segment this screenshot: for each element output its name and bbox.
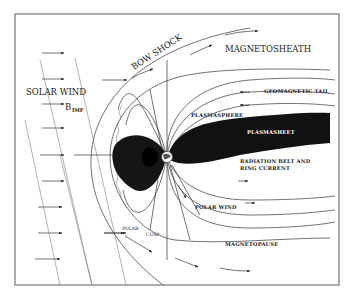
magnetosphere-diagram: SOLAR WIND B IMF BOW SHOCK MAGNETOSHEATH… bbox=[0, 0, 352, 298]
earth-icon bbox=[162, 152, 173, 163]
label-polar-wind: POLAR WIND bbox=[195, 204, 237, 210]
label-radiation-belt: RADIATION BELT AND bbox=[240, 158, 311, 164]
label-magnetopause: MAGNETOPAUSE bbox=[225, 241, 278, 247]
label-b-imf-subscript: IMF bbox=[72, 107, 84, 113]
label-geomagnetic-tail: GEOMAGNETIC TAIL bbox=[264, 88, 329, 94]
label-magnetosheath: MAGNETOSHEATH bbox=[225, 44, 311, 54]
label-cusp: CUSP bbox=[146, 232, 159, 237]
label-solar-wind: SOLAR WIND bbox=[26, 87, 86, 97]
label-polar: POLAR bbox=[122, 226, 139, 231]
label-plasmasphere: PLASMASPHERE bbox=[191, 112, 243, 118]
label-plasmasheet: PLASMASHEET bbox=[247, 129, 295, 135]
label-ring-current: RING CURRENT bbox=[240, 165, 290, 171]
label-b-imf: B bbox=[65, 102, 71, 112]
